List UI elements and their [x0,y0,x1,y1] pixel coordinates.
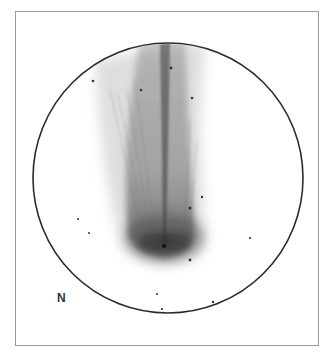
star [77,218,79,220]
star [140,89,143,92]
star [92,80,95,83]
comet-nucleus [162,244,166,248]
star [170,67,173,70]
star [191,97,194,100]
star [249,237,251,239]
comet-sketch [0,0,335,358]
star [161,308,163,310]
star [201,196,203,198]
star [88,232,90,234]
comet [95,40,205,265]
north-orientation-label: N [57,291,66,305]
star [189,259,192,262]
star [189,207,192,210]
star [156,293,158,295]
star [212,301,214,303]
